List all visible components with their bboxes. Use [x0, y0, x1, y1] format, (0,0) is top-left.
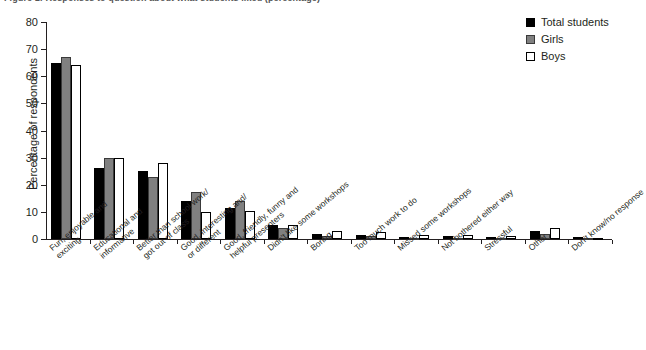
x-tick — [90, 240, 91, 244]
y-tick — [41, 239, 46, 240]
bar — [550, 228, 560, 239]
x-tick — [307, 240, 308, 244]
legend-item: Boys — [526, 48, 609, 65]
y-tick-label: 20 — [0, 180, 38, 191]
bar — [71, 65, 81, 239]
legend-label: Girls — [541, 34, 564, 45]
legend-item: Total students — [526, 14, 609, 31]
x-tick — [394, 240, 395, 244]
x-axis-label: Don't know/no response — [570, 188, 646, 254]
y-tick-label: 0 — [0, 234, 38, 245]
y-axis-line — [46, 22, 47, 240]
y-tick-label: 70 — [0, 44, 38, 55]
x-tick — [612, 240, 613, 244]
y-tick — [41, 22, 46, 23]
y-tick — [41, 158, 46, 159]
y-tick-label: 60 — [0, 71, 38, 82]
x-tick — [220, 240, 221, 244]
y-tick — [41, 103, 46, 104]
legend-label: Total students — [541, 17, 609, 28]
y-tick — [41, 212, 46, 213]
legend-swatch-boys — [526, 52, 535, 61]
legend-label: Boys — [541, 51, 565, 62]
legend-swatch-total — [526, 18, 535, 27]
y-tick-label: 50 — [0, 98, 38, 109]
y-tick-label: 30 — [0, 153, 38, 164]
y-tick-label: 80 — [0, 17, 38, 28]
y-tick — [41, 76, 46, 77]
y-tick — [41, 185, 46, 186]
x-tick — [133, 240, 134, 244]
x-tick — [264, 240, 265, 244]
chart-legend: Total studentsGirlsBoys — [526, 14, 609, 65]
bar — [593, 238, 603, 240]
x-tick — [568, 240, 569, 244]
y-tick-label: 40 — [0, 126, 38, 137]
x-axis-label: Missed some workshops — [396, 186, 473, 253]
y-tick — [41, 49, 46, 50]
x-tick — [481, 240, 482, 244]
legend-item: Girls — [526, 31, 609, 48]
x-tick — [351, 240, 352, 244]
x-tick — [525, 240, 526, 244]
bar — [61, 57, 71, 239]
bar — [51, 63, 61, 239]
legend-swatch-girls — [526, 35, 535, 44]
x-tick — [438, 240, 439, 244]
y-tick-label: 10 — [0, 207, 38, 218]
y-tick — [41, 131, 46, 132]
x-tick — [177, 240, 178, 244]
